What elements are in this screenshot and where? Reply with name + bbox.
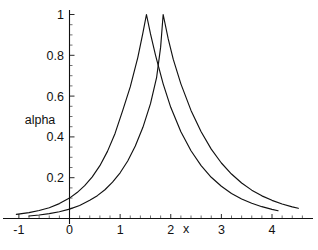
y-axis-tick-label: 0.6: [47, 90, 64, 104]
x-axis-label: x: [183, 222, 190, 236]
y-axis-label: alpha: [25, 113, 56, 127]
y-axis-tick-label: 0.4: [47, 130, 64, 144]
x-axis-tick-label: 2: [167, 223, 174, 237]
x-axis-tick-label: 3: [218, 223, 225, 237]
y-axis-tick-labels: 0.20.40.60.81: [47, 8, 64, 185]
x-axis-tick-label: -1: [13, 223, 24, 237]
x-axis-tick-label: 4: [269, 223, 276, 237]
x-axis-tick-labels: -101234: [13, 223, 275, 237]
x-axis-tick-label: 1: [117, 223, 124, 237]
chart-container: -101234 0.20.40.60.81 x alpha: [0, 0, 318, 250]
y-axis-tick-label: 1: [57, 8, 64, 22]
y-axis-tick-label: 0.8: [47, 49, 64, 63]
x-axis-tick-label: 0: [66, 223, 73, 237]
y-axis-tick-label: 0.2: [47, 171, 64, 185]
y-axis-major-ticks: [70, 15, 75, 178]
x-axis-major-ticks: [19, 214, 272, 219]
plot-canvas: -101234 0.20.40.60.81 x alpha: [0, 0, 318, 250]
